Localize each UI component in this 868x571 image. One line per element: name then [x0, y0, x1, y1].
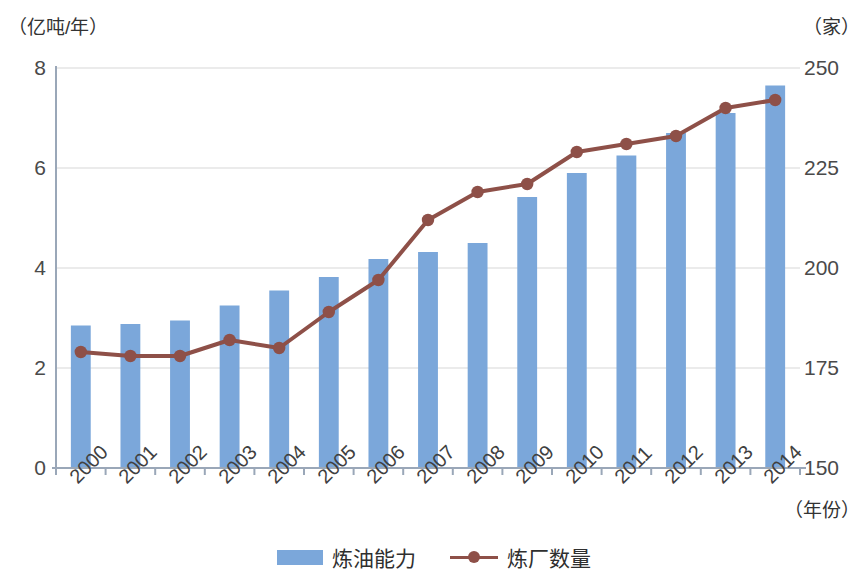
- bar: [269, 291, 289, 469]
- refining-capacity-chart: （亿吨/年） （家） （年份） 02468 150175200225250 20…: [0, 0, 868, 571]
- bar: [765, 86, 785, 469]
- line-marker: [174, 350, 186, 362]
- plot-svg: [56, 68, 800, 468]
- line-marker: [75, 346, 87, 358]
- right-axis-ticks: 150175200225250: [800, 0, 846, 571]
- line-marker: [471, 186, 483, 198]
- bar: [468, 243, 488, 468]
- left-axis-ticks: 02468: [8, 0, 54, 571]
- right-tick-label: 225: [804, 157, 839, 178]
- right-tick-label: 250: [804, 57, 839, 78]
- line-marker: [323, 306, 335, 318]
- x-axis-ticks: 2000200120022003200420052006200720082009…: [56, 472, 800, 532]
- line-marker: [769, 94, 781, 106]
- plot-area: [56, 68, 800, 468]
- bar: [220, 306, 240, 469]
- bar: [418, 252, 438, 468]
- bar: [716, 113, 736, 468]
- legend-bar-swatch-icon: [277, 550, 323, 565]
- bar: [517, 197, 537, 468]
- left-tick-label: 8: [34, 57, 46, 78]
- left-tick-label: 4: [34, 257, 46, 278]
- bar: [616, 156, 636, 469]
- left-tick-label: 0: [34, 457, 46, 478]
- legend-line-swatch-icon: [450, 550, 498, 564]
- bar: [368, 259, 388, 468]
- line-marker: [124, 350, 136, 362]
- bar: [170, 321, 190, 469]
- line-marker: [571, 146, 583, 158]
- bar: [666, 133, 686, 468]
- line-marker: [719, 102, 731, 114]
- chart-legend: 炼油能力 炼厂数量: [0, 542, 868, 571]
- legend-item-line: 炼厂数量: [450, 542, 591, 571]
- line-marker: [620, 138, 632, 150]
- line-marker: [273, 342, 285, 354]
- bar: [120, 324, 140, 468]
- right-tick-label: 150: [804, 457, 839, 478]
- line-marker: [521, 178, 533, 190]
- line-marker: [372, 274, 384, 286]
- line-marker: [422, 214, 434, 226]
- left-tick-label: 6: [34, 157, 46, 178]
- bar: [567, 173, 587, 468]
- line-marker: [223, 334, 235, 346]
- right-tick-label: 200: [804, 257, 839, 278]
- legend-item-bar: 炼油能力: [277, 542, 416, 571]
- right-tick-label: 175: [804, 357, 839, 378]
- line-marker: [670, 130, 682, 142]
- legend-bar-label: 炼油能力: [332, 542, 416, 571]
- left-tick-label: 2: [34, 357, 46, 378]
- legend-line-label: 炼厂数量: [507, 542, 591, 571]
